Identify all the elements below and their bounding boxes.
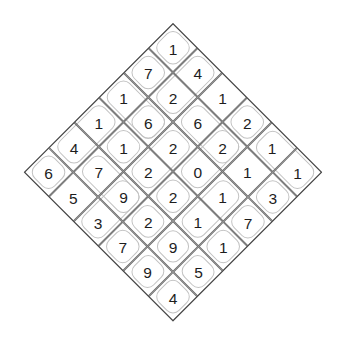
grid-stage: 141211726213162017112211479295653794 — [0, 0, 346, 343]
diamond-number-grid-figure: 141211726213162017112211479295653794 — [0, 0, 346, 343]
number-grid-lattice: 141211726213162017112211479295653794 — [24, 22, 322, 320]
cell-digit: 4 — [155, 280, 190, 315]
